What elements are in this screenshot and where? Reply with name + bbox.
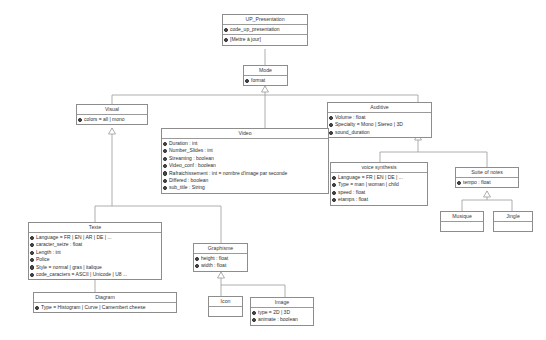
generalization-arrow-graphisme xyxy=(218,272,225,278)
attribute-marker-icon xyxy=(163,149,168,154)
attribute-label: Duration : int xyxy=(169,140,328,147)
attribute-label: Number_Slides : int xyxy=(169,147,328,154)
class-title: Texte xyxy=(29,223,161,232)
attribute-marker-icon xyxy=(163,141,168,146)
attribute-marker-icon xyxy=(163,186,168,191)
attribute-marker-icon xyxy=(163,163,168,168)
operation-label: [Mettre à jour] xyxy=(230,36,307,43)
generalization-arrow-suite xyxy=(484,191,491,197)
attribute-marker-icon xyxy=(163,171,168,176)
class-jingle[interactable]: Jingle xyxy=(493,211,533,232)
class-texte[interactable]: Texte Language = FR | EN | AR | DE | ...… xyxy=(28,222,162,280)
attribute-row: tempo : float xyxy=(456,179,518,186)
attribute-marker-icon xyxy=(329,115,334,120)
attribute-marker-icon xyxy=(35,305,40,310)
attribute-label: animate : boolean xyxy=(258,316,313,323)
attribute-marker-icon xyxy=(329,130,334,135)
attribute-marker-icon xyxy=(252,310,257,315)
attribute-compartment: Language = FR | EN | AR | DE | ... carac… xyxy=(29,233,161,279)
class-icon[interactable]: Icon xyxy=(208,296,243,317)
attribute-row: Video_conf : boolean xyxy=(162,162,328,169)
attribute-row: Differed : boolean xyxy=(162,177,328,184)
attribute-row: Police xyxy=(29,256,161,263)
attribute-label: Type = man | woman | child xyxy=(338,181,427,188)
attribute-marker-icon xyxy=(332,175,337,180)
attribute-label: sound_duration xyxy=(335,129,431,136)
attribute-label: height : float xyxy=(201,255,247,262)
attribute-row: speed : float xyxy=(331,189,427,196)
attribute-marker-icon xyxy=(329,123,334,128)
class-title: Icon xyxy=(209,297,242,306)
attribute-marker-icon xyxy=(245,78,250,83)
attribute-row: Length : int xyxy=(29,249,161,256)
operation-compartment: [Mettre à jour] xyxy=(223,35,307,44)
attribute-marker-icon xyxy=(195,256,200,261)
attribute-compartment: Language = FR | EN | DE | ... Type = man… xyxy=(331,173,427,205)
class-musique[interactable]: Musique xyxy=(440,211,484,232)
attribute-row: Number_Slides : int xyxy=(162,147,328,154)
attribute-row: Volume : float xyxy=(328,114,431,121)
attribute-row: Streaming : boolean xyxy=(162,155,328,162)
attribute-row: Rafraichissement : int = nombre d'image … xyxy=(162,170,328,177)
attribute-row: height : float xyxy=(194,255,247,262)
attribute-label: Police xyxy=(36,256,161,263)
attribute-marker-icon xyxy=(332,183,337,188)
attribute-compartment: Volume : float Specialty = Mono | Stereo… xyxy=(328,113,431,137)
class-mode[interactable]: Mode format xyxy=(243,65,288,86)
empty-attribute-compartment xyxy=(494,222,532,231)
class-video[interactable]: Video Duration : int Number_Slides : int… xyxy=(161,128,329,194)
attribute-row: Style = normal | gras | italique xyxy=(29,264,161,271)
attribute-marker-icon xyxy=(163,156,168,161)
attribute-marker-icon xyxy=(224,27,229,32)
attribute-row: code_caracters = ASCII | Unicode | U8 ..… xyxy=(29,271,161,278)
class-title: Video xyxy=(162,129,328,138)
class-suite-of-notes[interactable]: Suite of notes tempo : float xyxy=(455,167,519,188)
attribute-compartment: colors = all | mono xyxy=(77,115,147,124)
operation-marker-icon xyxy=(224,38,229,43)
class-title: Image xyxy=(251,298,313,307)
attribute-label: Video_conf : boolean xyxy=(169,162,328,169)
attribute-row: width : float xyxy=(194,262,247,269)
attribute-marker-icon xyxy=(252,318,257,323)
attribute-label: etamps : float xyxy=(338,196,427,203)
attribute-label: tempo : float xyxy=(463,179,518,186)
attribute-compartment: code_up_presentation xyxy=(223,25,307,34)
attribute-marker-icon xyxy=(332,197,337,202)
class-up-presentation[interactable]: UP_Presentation code_up_presentation [Me… xyxy=(222,14,308,46)
attribute-marker-icon xyxy=(30,257,35,262)
class-voice-synthesis[interactable]: voice synthesis Language = FR | EN | DE … xyxy=(330,162,428,206)
class-title: UP_Presentation xyxy=(223,15,307,24)
attribute-label: code_up_presentation xyxy=(230,26,307,33)
attribute-row: colors = all | mono xyxy=(77,116,147,123)
class-title: Mode xyxy=(244,66,287,75)
attribute-label: colors = all | mono xyxy=(84,116,147,123)
attribute-row: Type = man | woman | child xyxy=(331,181,427,188)
attribute-label: code_caracters = ASCII | Unicode | U8 ..… xyxy=(36,271,161,278)
attribute-label: Volume : float xyxy=(335,114,431,121)
attribute-marker-icon xyxy=(30,272,35,277)
attribute-label: Streaming : boolean xyxy=(169,155,328,162)
attribute-marker-icon xyxy=(163,178,168,183)
attribute-marker-icon xyxy=(30,250,35,255)
attribute-row: Duration : int xyxy=(162,140,328,147)
class-diagram[interactable]: Diagram Type = Histogram | Curve | Camem… xyxy=(33,292,177,313)
attribute-compartment: height : float width : float xyxy=(194,254,247,271)
attribute-label: Specialty = Mono | Stereo | 3D xyxy=(335,121,431,128)
class-title: Graphisme xyxy=(194,244,247,253)
attribute-label: Rafraichissement : int = nombre d'image … xyxy=(169,170,328,177)
attribute-row: type = 2D | 3D xyxy=(251,309,313,316)
class-image[interactable]: Image type = 2D | 3D animate : boolean xyxy=(250,297,314,326)
attribute-marker-icon xyxy=(457,180,462,185)
class-graphisme[interactable]: Graphisme height : float width : float xyxy=(193,243,248,272)
attribute-label: format xyxy=(251,77,287,84)
attribute-label: type = 2D | 3D xyxy=(258,309,313,316)
class-visual[interactable]: Visual colors = all | mono xyxy=(76,104,148,125)
attribute-label: sub_title : String xyxy=(169,184,328,191)
attribute-label: Length : int xyxy=(36,249,161,256)
attribute-compartment: Duration : int Number_Slides : int Strea… xyxy=(162,139,328,193)
attribute-compartment: Type = Histogram | Curve | Camembert che… xyxy=(34,303,176,312)
class-auditive[interactable]: Auditive Volume : float Specialty = Mono… xyxy=(327,102,432,138)
attribute-row: Language = FR | EN | AR | DE | ... xyxy=(29,234,161,241)
attribute-marker-icon xyxy=(30,235,35,240)
class-title: Jingle xyxy=(494,212,532,221)
